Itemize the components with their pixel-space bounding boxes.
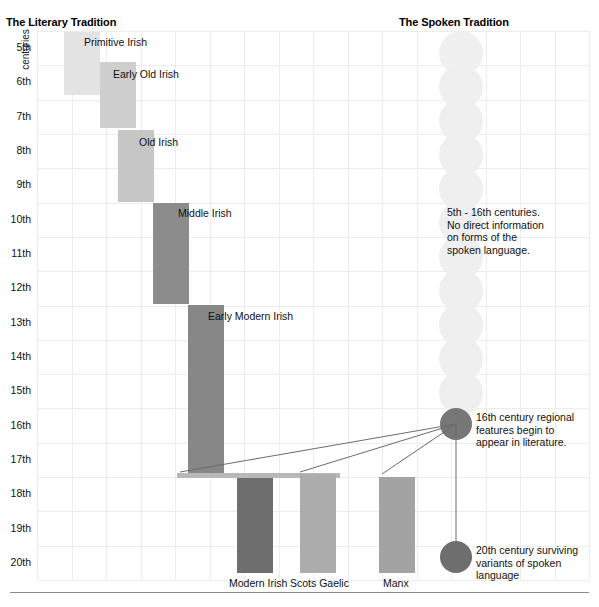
century-tick-8th: 8th [0,144,31,156]
spoken-marker-20th-century [440,541,472,573]
footer-divider [10,592,589,593]
timeline-diagram: The Literary Tradition The Spoken Tradit… [0,0,599,607]
century-tick-17th: 17th [0,453,31,465]
note-16th-century-regional-features: 16th century regional features begin to … [476,411,599,449]
century-tick-19th: 19th [0,522,31,534]
grid-line-horizontal [37,31,589,32]
century-tick-6th: 6th [0,75,31,87]
label-early-modern-irish: Early Modern Irish [208,310,293,322]
label-middle-irish: Middle Irish [178,207,232,219]
century-tick-12th: 12th [0,281,31,293]
century-tick-18th: 18th [0,487,31,499]
label-primitive-irish: Primitive Irish [84,36,147,48]
grid-line-vertical [589,31,590,580]
century-tick-10th: 10th [0,213,31,225]
label-early-old-irish: Early Old Irish [113,68,179,80]
century-tick-7th: 7th [0,110,31,122]
century-tick-5th: 5th [0,41,31,53]
note-no-direct-information: 5th - 16th centuries. No direct informat… [447,206,597,256]
note-20th-century-surviving-variants: 20th century surviving variants of spoke… [476,544,599,582]
century-tick-20th: 20th [0,556,31,568]
grid-line-horizontal [37,271,589,272]
bar-scots-gaelic [300,474,336,573]
label-modern-irish: Modern Irish [229,577,287,589]
grid-line-horizontal [37,374,589,375]
grid-line-horizontal [37,340,589,341]
century-tick-13th: 13th [0,316,31,328]
century-tick-11th: 11th [0,247,31,259]
label-manx: Manx [383,577,409,589]
grid-line-horizontal [37,203,589,204]
century-tick-9th: 9th [0,178,31,190]
century-tick-16th: 16th [0,419,31,431]
spoken-marker-16th-century [440,408,472,440]
century-tick-14th: 14th [0,350,31,362]
grid-line-horizontal [37,306,589,307]
spoken-tradition-heading: The Spoken Tradition [399,16,509,28]
bar-modern-irish [237,478,273,573]
label-old-irish: Old Irish [139,136,178,148]
bar-manx [379,477,415,573]
century-tick-15th: 15th [0,384,31,396]
grid-line-horizontal [37,408,589,409]
bar-early-modern-irish [188,305,224,473]
label-scots-gaelic: Scots Gaelic [290,577,349,589]
